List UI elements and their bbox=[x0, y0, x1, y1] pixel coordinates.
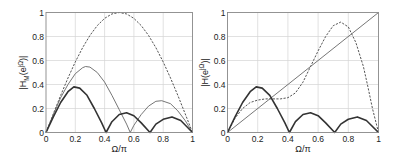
y-tick-label: 1 bbox=[221, 8, 226, 18]
x-tick-label: 0.6 bbox=[128, 134, 140, 144]
x-tick-label: 0.8 bbox=[157, 134, 169, 144]
y-tick-label: 1 bbox=[39, 8, 44, 18]
figure: 00.20.40.60.8100.20.40.60.81Ω/π|HM(ejΩ)|… bbox=[0, 0, 394, 158]
series-thin-solid bbox=[46, 67, 193, 133]
x-tick-label: 0.2 bbox=[69, 134, 81, 144]
right-plot: 00.20.40.60.8100.20.40.60.81Ω/π|H(ejΩ)| bbox=[198, 8, 381, 154]
y-tick-label: 0.6 bbox=[214, 56, 226, 66]
y-tick-label: 0.8 bbox=[32, 32, 44, 42]
y-tick-label: 0.8 bbox=[214, 32, 226, 42]
x-axis-label: Ω/π bbox=[112, 144, 127, 154]
series-dashed bbox=[228, 22, 379, 132]
y-tick-label: 0.4 bbox=[214, 80, 226, 90]
x-tick-label: 0 bbox=[44, 134, 49, 144]
y-tick-label: 0.4 bbox=[32, 80, 44, 90]
x-axis-label: Ω/π bbox=[295, 144, 310, 154]
y-axis-label: |H(ejΩ)| bbox=[198, 58, 210, 87]
y-axis-label: |HM(ejΩ)| bbox=[17, 56, 30, 90]
y-tick-label: 0.2 bbox=[214, 104, 226, 114]
x-tick-label: 1 bbox=[376, 134, 381, 144]
x-tick-label: 1 bbox=[190, 134, 195, 144]
y-tick-label: 0.6 bbox=[32, 56, 44, 66]
x-tick-label: 0 bbox=[225, 134, 230, 144]
x-tick-label: 0.8 bbox=[342, 134, 354, 144]
x-tick-label: 0.6 bbox=[312, 134, 324, 144]
x-tick-label: 0.4 bbox=[99, 134, 111, 144]
y-tick-label: 0.2 bbox=[32, 104, 44, 114]
left-plot: 00.20.40.60.8100.20.40.60.81Ω/π|HM(ejΩ)| bbox=[17, 8, 196, 154]
y-tick-label: 0 bbox=[39, 128, 44, 138]
x-tick-label: 0.2 bbox=[252, 134, 264, 144]
series-thick-solid bbox=[228, 87, 379, 133]
x-tick-label: 0.4 bbox=[282, 134, 294, 144]
y-tick-label: 0 bbox=[221, 128, 226, 138]
